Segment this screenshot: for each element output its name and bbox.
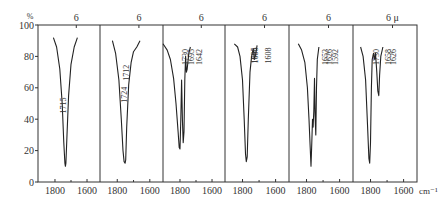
x-tick-label: 1600 (266, 185, 286, 196)
axes: 020406080100%cm⁻¹ (19, 12, 438, 196)
x-tick-label: 1800 (170, 185, 190, 196)
spectrum-panel-3: 180016006173016951642 (163, 12, 222, 196)
y-tick-label: 80 (24, 51, 34, 62)
x-tick-label: 1600 (330, 185, 350, 196)
x-tick-label: 1600 (77, 185, 97, 196)
top-tick-label: 6 (74, 12, 79, 23)
spectrum-panel-2: 18001600617241712 (100, 12, 160, 196)
peak-label: 1730 (372, 49, 381, 65)
top-tick-label: 6 μ (386, 12, 399, 23)
y-tick-label: 0 (29, 177, 34, 188)
x-tick-label: 1600 (202, 185, 222, 196)
top-tick-label: 6 (262, 12, 267, 23)
y-tick-label: 40 (24, 114, 34, 125)
spectrum-panel-1: 1800160061715 (45, 12, 97, 196)
y-tick-label: 60 (24, 82, 34, 93)
peak-label: 1715 (59, 98, 68, 114)
peak-label: 1712 (122, 65, 131, 81)
spectrum-curve (298, 44, 319, 167)
top-tick-label: 6 (199, 12, 204, 23)
spectra-panels: 1800160061715180016006172417121800160061… (45, 12, 414, 196)
peak-label: 1592 (331, 49, 340, 65)
x-tick-label: 1800 (45, 185, 65, 196)
spectrum-panel-4: 180016006169516861608 (225, 12, 286, 196)
x-tick-label: 1800 (233, 185, 253, 196)
spectrum-panel-5: 180016006165316261592 (289, 12, 350, 196)
y-tick-label: 20 (24, 145, 34, 156)
peak-label: 1724 (120, 87, 129, 103)
x-tick-label: 1800 (297, 185, 317, 196)
peak-label: 1626 (389, 49, 398, 65)
y-tick-label: 100 (19, 20, 34, 31)
spectrum-panel-6: 180016006 μ173016581626 (353, 12, 414, 196)
y-axis-label: % (27, 12, 34, 21)
peak-label: 1608 (264, 47, 273, 63)
peak-label: 1686 (251, 47, 260, 63)
x-tick-label: 1600 (394, 185, 414, 196)
top-tick-label: 6 (136, 12, 141, 23)
x-axis-unit: cm⁻¹ (419, 186, 438, 196)
x-tick-label: 1600 (140, 185, 160, 196)
peak-label: 1642 (195, 49, 204, 65)
x-tick-label: 1800 (107, 185, 127, 196)
top-tick-label: 6 (326, 12, 331, 23)
ir-spectra-chart: 020406080100%cm⁻¹ 1800160061715180016006… (0, 0, 446, 205)
x-tick-label: 1800 (361, 185, 381, 196)
plot-frame (38, 25, 417, 182)
